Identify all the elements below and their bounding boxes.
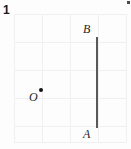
segment-ab (96, 37, 98, 128)
corner-speck (127, 1, 130, 4)
grid-line-horizontal (14, 14, 126, 15)
grid-line-horizontal (14, 126, 126, 127)
label-a: A (83, 128, 90, 140)
label-b: B (83, 23, 90, 35)
problem-number: 1 (3, 4, 9, 16)
label-o: O (29, 91, 38, 103)
grid-line-vertical (98, 14, 99, 142)
grid-line-vertical (42, 14, 43, 142)
grid-line-horizontal (14, 70, 126, 71)
grid-line-vertical (14, 14, 15, 142)
grid-background (0, 0, 131, 149)
grid-line-horizontal (14, 42, 126, 43)
grid-line-vertical (70, 14, 71, 142)
geometry-figure: 1 B A O (0, 0, 131, 149)
grid-line-horizontal (14, 142, 126, 143)
point-o-dot (39, 88, 43, 92)
grid-line-vertical (126, 14, 127, 142)
